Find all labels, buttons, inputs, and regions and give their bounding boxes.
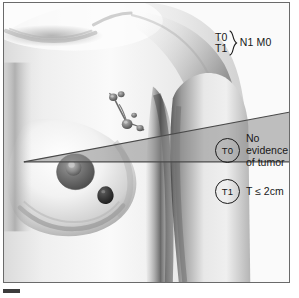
corner-tick-mark xyxy=(3,289,20,293)
callout-t0-line-2: evidence xyxy=(246,145,288,157)
callout-t0: T0 No evidence of tumor xyxy=(215,133,288,168)
stage-t-stack: T0 T1 xyxy=(215,32,228,54)
callout-t0-line-1: No xyxy=(246,133,288,145)
stage-header: T0 T1 N1 M0 xyxy=(215,30,272,56)
callout-t1-text: T ≤ 2cm xyxy=(246,186,284,198)
figure-frame: T0 T1 N1 M0 T0 No evidence of tumor T1 T… xyxy=(3,2,290,283)
callout-t1-line-1: T ≤ 2cm xyxy=(246,186,284,198)
brace-icon xyxy=(229,30,238,56)
callout-t1-marker: T1 xyxy=(215,179,240,204)
callout-t0-text: No evidence of tumor xyxy=(246,133,288,168)
callout-t0-marker: T0 xyxy=(215,138,240,163)
callout-t0-line-3: of tumor xyxy=(246,157,288,169)
sternum-midline xyxy=(4,63,32,232)
callout-t1: T1 T ≤ 2cm xyxy=(215,179,284,204)
stage-row-t1: T1 xyxy=(215,43,228,54)
figure-root: T0 T1 N1 M0 T0 No evidence of tumor T1 T… xyxy=(0,0,299,298)
upper-arm xyxy=(170,73,250,282)
stage-n-m-label: N1 M0 xyxy=(240,37,272,48)
nipple-areola xyxy=(57,154,95,190)
